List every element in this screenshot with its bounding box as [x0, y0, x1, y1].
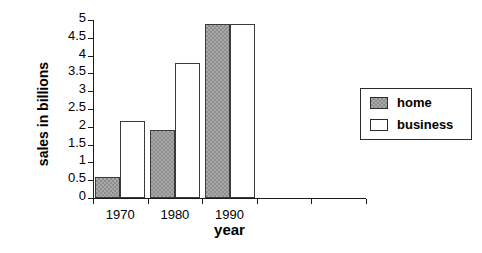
y-tick-label: 1 — [46, 153, 86, 166]
legend-label-business: business — [397, 118, 453, 132]
legend-swatch-home — [370, 97, 388, 109]
bar-business-1970 — [120, 121, 145, 198]
y-tick-label: 4 — [46, 47, 86, 60]
x-tick-mark — [366, 199, 367, 204]
y-tick-label: 3 — [46, 82, 86, 95]
bar-home-1990 — [205, 24, 230, 198]
legend-item-business: business — [370, 117, 453, 133]
y-tick-label: 0 — [46, 189, 86, 202]
legend-label-home: home — [397, 96, 432, 110]
bar-home-1980 — [150, 130, 175, 198]
y-tick-label: 2 — [46, 118, 86, 131]
x-axis-title: year — [93, 221, 366, 238]
legend-item-home: home — [370, 95, 432, 111]
y-tick-label: 5 — [46, 11, 86, 24]
legend-swatch-business — [370, 119, 388, 131]
x-tick-mark — [93, 199, 94, 204]
x-tick-mark — [148, 199, 149, 204]
y-tick-label: 0.5 — [46, 171, 86, 184]
y-tick-label: 1.5 — [46, 136, 86, 149]
x-tick-mark — [202, 199, 203, 204]
y-tick-label: 2.5 — [46, 100, 86, 113]
bars-layer — [93, 20, 366, 199]
y-tick-label: 3.5 — [46, 64, 86, 77]
bar-home-1970 — [95, 177, 120, 198]
bar-chart-figure: sales in billions 00.511.522.533.544.55 … — [0, 0, 482, 253]
x-tick-label: 1990 — [195, 208, 265, 222]
bar-business-1990 — [230, 24, 255, 198]
x-tick-mark — [311, 199, 312, 204]
plot-area: 00.511.522.533.544.55 197019801990 — [93, 20, 366, 198]
bar-business-1980 — [175, 63, 200, 198]
chart-legend: home business — [360, 88, 472, 140]
x-tick-mark — [257, 199, 258, 204]
y-tick-label: 4.5 — [46, 29, 86, 42]
